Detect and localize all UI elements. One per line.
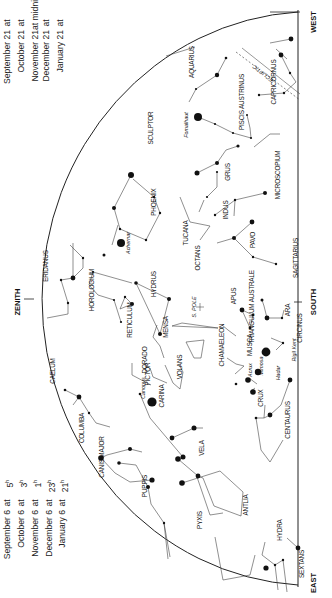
east-label: EAST <box>309 573 318 593</box>
label-caelum: CAELUM <box>49 358 56 383</box>
times-left-table: September 6at5h October 6at3h November 6… <box>2 480 71 598</box>
label-hydra: HYDRA <box>276 518 283 540</box>
south-pole-marker <box>196 303 204 311</box>
label-mensa: MENSA <box>162 315 169 338</box>
label-rigil-kent: Rigil Kent <box>291 338 297 362</box>
label-vela: VELA <box>198 439 205 455</box>
label-tucana: TUCANA <box>182 220 189 246</box>
label-mimosa: Mimosa <box>258 357 264 376</box>
label-columba: COLUMBA <box>78 412 85 443</box>
label-sextans: SEXTANS <box>298 550 305 578</box>
label-piscis-austrinus: PISCIS AUSTRINUS <box>238 74 245 130</box>
label-pyxis: PYXIS <box>196 511 203 529</box>
label-ara: ARA <box>284 303 291 316</box>
label-octans: OCTANS <box>194 246 201 271</box>
label-centaurus: CENTAURUS <box>284 401 291 439</box>
label-acrux: Acrux <box>247 363 253 378</box>
label-grus: GRUS <box>224 163 231 181</box>
label-sculptor: SCULPTOR <box>147 111 154 145</box>
label-reticulum: RETICULUM <box>126 302 133 337</box>
label-indus: INDUS <box>222 201 229 220</box>
zenith-label: ZENITH <box>13 288 22 315</box>
label-pole: S. POLE <box>191 296 197 317</box>
constellation-lines <box>47 39 298 592</box>
times-right-table: September 21at4h October 21at2h November… <box>2 0 68 118</box>
label-fomalhaut: Fomalhaut <box>183 112 189 138</box>
south-label: SOUTH <box>309 289 318 315</box>
label-carina: CARINA <box>158 384 165 408</box>
stars <box>60 37 301 571</box>
label-hadar: Hadar <box>275 365 281 380</box>
label-phoenix: PHOENIX <box>150 187 157 215</box>
label-hydrus: HYDRUS <box>150 271 157 297</box>
label-achernar: Achernar <box>125 232 131 255</box>
label-crux: CRUX <box>257 388 264 406</box>
label-apus: APUS <box>230 288 237 305</box>
label-pavo: PAVO <box>249 232 256 248</box>
label-sagittarius: SAGITTARIUS <box>292 238 299 278</box>
label-horologium: HOROLOGIUM <box>88 269 95 311</box>
label-musca: MUSCA <box>246 333 253 356</box>
label-antlia: ANTLIA <box>242 493 249 515</box>
label-canis-major: CANIS MAJOR <box>98 436 105 478</box>
label-eridanus: ERIDANUS <box>42 250 49 281</box>
label-chamaeleon: CHAMAELEON <box>218 323 225 366</box>
label-volans: VOLANS <box>176 355 183 380</box>
label-aquarius: AQUARIUS <box>188 46 196 78</box>
label-triangulum-australe: TRIANGULUM AUSTRALE <box>248 270 255 344</box>
label-microscopium: MICROSCOPIUM <box>274 151 281 200</box>
west-label: WEST <box>309 11 318 33</box>
label-circinus: CIRCINUS <box>296 313 303 342</box>
label-puppis: PUPPIS <box>141 475 148 497</box>
label-canopus: Canopus <box>140 377 146 399</box>
